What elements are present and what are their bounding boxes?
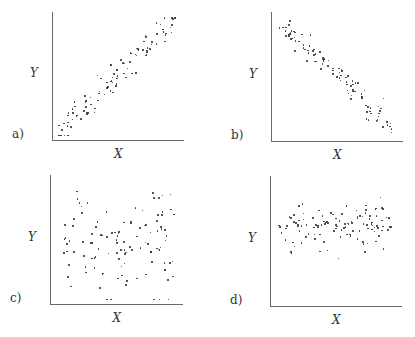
data-point xyxy=(286,225,288,227)
data-point xyxy=(319,234,321,236)
data-point xyxy=(97,75,99,77)
data-point xyxy=(303,44,305,46)
data-point xyxy=(382,226,384,228)
data-point xyxy=(95,256,97,258)
data-point xyxy=(156,43,158,45)
data-point xyxy=(151,261,153,263)
data-point xyxy=(308,233,310,235)
data-point xyxy=(317,225,319,227)
data-point xyxy=(124,263,126,265)
data-point xyxy=(104,94,106,96)
data-point xyxy=(156,220,158,222)
data-point xyxy=(67,115,69,117)
data-point xyxy=(318,210,320,212)
data-point xyxy=(151,44,153,46)
data-point xyxy=(324,58,326,60)
data-point xyxy=(116,83,118,85)
data-point xyxy=(378,235,380,237)
data-point xyxy=(171,32,173,34)
data-point xyxy=(164,41,166,43)
data-point xyxy=(124,253,126,255)
data-point xyxy=(294,37,296,39)
data-point xyxy=(299,230,301,232)
data-point xyxy=(66,251,68,253)
data-point xyxy=(145,274,147,276)
x-axis-label: X xyxy=(332,313,341,327)
data-point xyxy=(164,17,166,19)
data-point xyxy=(95,226,97,228)
data-point xyxy=(108,253,110,255)
data-point xyxy=(118,233,120,235)
data-point xyxy=(79,202,81,204)
data-point xyxy=(290,217,292,219)
data-point xyxy=(350,235,352,237)
data-point xyxy=(281,232,283,234)
data-point xyxy=(67,276,69,278)
data-point xyxy=(390,123,392,125)
y-axis xyxy=(52,12,53,140)
data-point xyxy=(110,90,112,92)
data-point xyxy=(91,258,93,260)
data-point xyxy=(111,64,113,66)
data-point xyxy=(123,241,125,243)
data-point xyxy=(321,224,323,226)
data-point xyxy=(74,101,76,103)
data-point xyxy=(340,75,342,77)
data-point xyxy=(106,299,108,301)
data-point xyxy=(69,240,71,242)
data-point xyxy=(359,230,361,232)
data-point xyxy=(136,55,138,57)
data-point xyxy=(170,209,172,211)
data-point xyxy=(346,84,348,86)
data-point xyxy=(73,251,75,253)
data-point xyxy=(100,78,102,80)
data-point xyxy=(163,31,165,33)
data-point xyxy=(280,226,282,228)
data-point xyxy=(113,73,115,75)
panel-label: b) xyxy=(231,128,243,142)
data-point xyxy=(117,235,119,237)
data-point xyxy=(309,45,311,47)
data-point xyxy=(285,239,287,241)
data-point xyxy=(129,246,131,248)
data-point xyxy=(99,91,101,93)
data-point xyxy=(70,286,72,288)
data-point xyxy=(327,250,329,252)
data-point xyxy=(341,213,343,215)
data-point xyxy=(298,205,300,207)
data-point xyxy=(98,248,100,250)
data-point xyxy=(157,214,159,216)
data-point xyxy=(372,225,374,227)
data-point xyxy=(110,64,112,66)
data-point xyxy=(125,77,127,79)
data-point xyxy=(350,98,352,100)
data-point xyxy=(125,284,127,286)
data-point xyxy=(332,73,334,75)
data-point xyxy=(371,229,373,231)
data-point xyxy=(114,232,116,234)
data-point xyxy=(166,235,168,237)
data-point xyxy=(116,78,118,80)
data-point xyxy=(323,241,325,243)
data-point xyxy=(313,54,315,56)
data-point xyxy=(301,242,303,244)
data-point xyxy=(67,125,69,127)
data-point xyxy=(341,70,343,72)
data-point xyxy=(121,275,123,277)
data-point xyxy=(146,50,148,52)
data-point xyxy=(282,27,284,29)
data-point xyxy=(288,24,290,26)
y-axis-label: Y xyxy=(249,67,257,81)
data-point xyxy=(346,205,348,207)
data-point xyxy=(363,223,365,225)
data-point xyxy=(314,238,316,240)
data-point xyxy=(94,112,96,114)
data-point xyxy=(288,36,290,38)
data-point xyxy=(81,206,83,208)
data-point xyxy=(139,227,141,229)
data-point xyxy=(382,126,384,128)
data-point xyxy=(297,225,299,227)
data-point xyxy=(86,114,88,116)
data-point xyxy=(378,116,380,118)
data-point xyxy=(157,230,159,232)
